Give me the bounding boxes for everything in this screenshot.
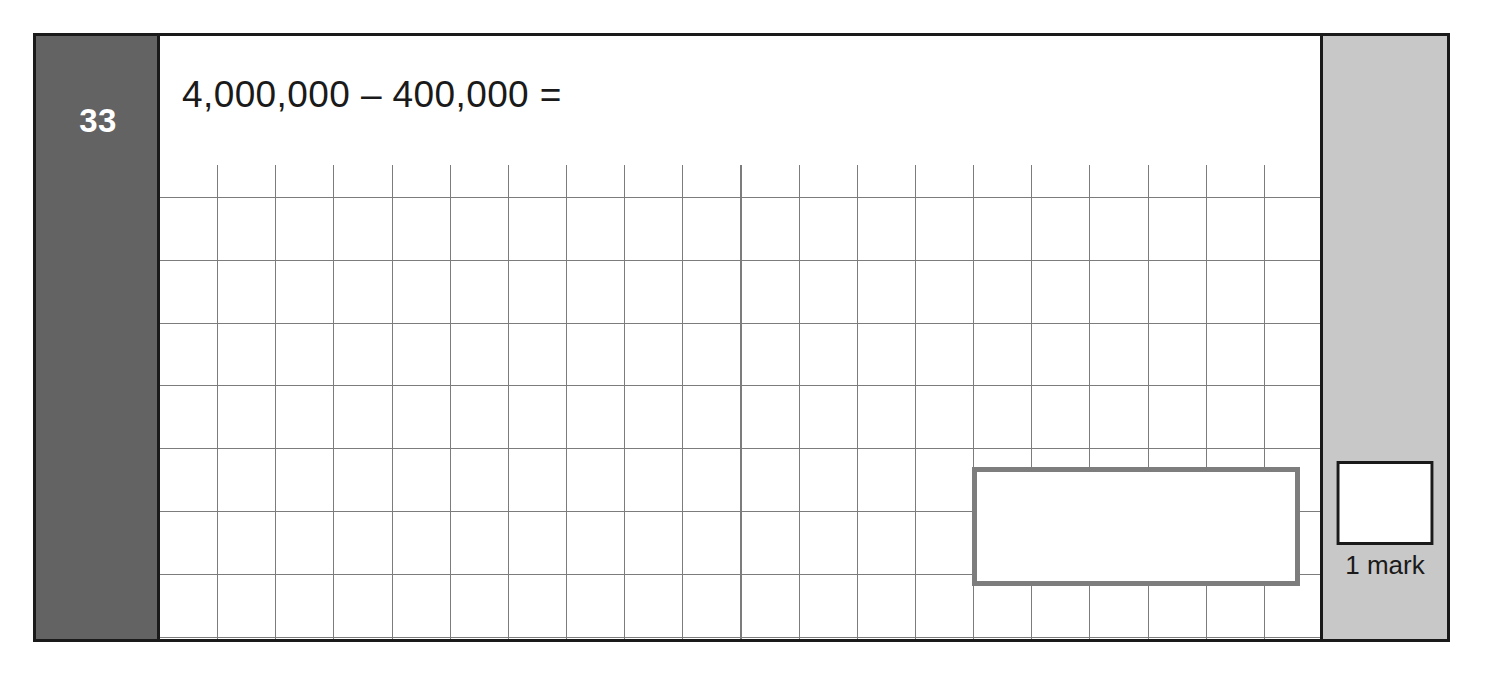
question-number: 33: [36, 104, 160, 137]
question-prompt: 4,000,000 – 400,000 =: [182, 76, 562, 113]
question-frame: 33 4,000,000 – 400,000 = 1 mark: [33, 33, 1450, 642]
answer-box[interactable]: [972, 467, 1300, 586]
question-number-column: 33: [36, 36, 160, 639]
question-body: 4,000,000 – 400,000 =: [160, 36, 1320, 639]
marking-column: 1 mark: [1320, 36, 1447, 639]
exam-question-page: 33 4,000,000 – 400,000 = 1 mark: [0, 0, 1487, 686]
mark-label: 1 mark: [1323, 552, 1447, 578]
mark-score-box[interactable]: [1337, 461, 1434, 545]
prompt-area: 4,000,000 – 400,000 =: [160, 36, 1320, 165]
